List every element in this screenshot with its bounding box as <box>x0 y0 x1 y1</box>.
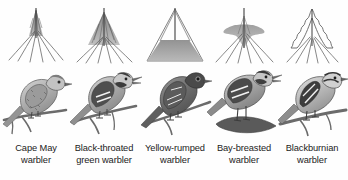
column-black-throated-green: Black-throated green warbler <box>66 0 142 180</box>
feeding-zone-shade <box>147 40 203 61</box>
bird-illustration-yellow-rumped <box>138 62 212 140</box>
bird-svg <box>66 62 142 140</box>
label-line-2: warbler <box>276 155 348 167</box>
tree-svg <box>276 4 348 66</box>
tree-svg <box>138 4 212 66</box>
tree-diagram-cape-may <box>0 4 72 66</box>
label-cape-may: Cape May warbler <box>0 143 72 166</box>
bird-eye <box>265 76 268 79</box>
column-yellow-rumped: Yellow-rumped warbler <box>138 0 212 180</box>
label-black-throated-green: Black-throated green warbler <box>66 143 142 166</box>
tree-svg <box>66 4 142 66</box>
bird-eye <box>58 81 61 84</box>
bird-illustration-blackburnian <box>276 62 348 140</box>
warbler-niche-figure: Cape May warbler <box>0 0 348 180</box>
bird-tail <box>70 104 92 125</box>
bird-beak <box>341 78 348 81</box>
label-line-1: Blackburnian <box>286 143 339 153</box>
bird-tail <box>207 98 227 116</box>
label-blackburnian: Blackburnian warbler <box>276 143 348 166</box>
bird-illustration-cape-may <box>0 62 72 140</box>
tree-svg <box>206 4 282 66</box>
bird-svg <box>0 62 72 140</box>
bird-svg <box>276 62 348 140</box>
bird-illustration-bay-breasted <box>206 62 282 140</box>
label-line-1: Cape May <box>15 143 57 153</box>
bird-eye <box>197 78 200 81</box>
column-blackburnian: Blackburnian warbler <box>276 0 348 180</box>
bird-tail <box>141 106 164 128</box>
tree-svg <box>0 4 72 66</box>
label-line-2: warbler <box>138 155 212 167</box>
label-line-2: warbler <box>0 155 72 167</box>
column-bay-breasted: Bay-breasted warbler <box>206 0 282 180</box>
label-line-1: Black-throated <box>75 143 134 153</box>
bird-svg <box>206 62 282 140</box>
label-bay-breasted: Bay-breasted warbler <box>206 143 282 166</box>
label-yellow-rumped: Yellow-rumped warbler <box>138 143 212 166</box>
bird-illustration-black-throated-green <box>66 62 142 140</box>
label-line-2: warbler <box>206 155 282 167</box>
tree-diagram-bay-breasted <box>206 4 282 66</box>
tree-diagram-blackburnian <box>276 4 348 66</box>
label-line-1: Yellow-rumped <box>145 143 205 153</box>
bird-eye <box>125 78 128 81</box>
label-line-1: Bay-breasted <box>217 143 271 153</box>
tree-diagram-yellow-rumped <box>138 4 212 66</box>
tree-diagram-black-throated-green <box>66 4 142 66</box>
bird-eye <box>334 77 337 80</box>
bird-svg <box>138 62 212 140</box>
column-cape-may: Cape May warbler <box>0 0 72 180</box>
label-line-2: green warbler <box>66 155 142 167</box>
